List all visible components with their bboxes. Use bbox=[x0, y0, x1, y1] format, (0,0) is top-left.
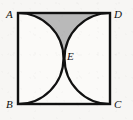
vertex-label-e: E bbox=[67, 51, 74, 62]
geometry-figure: A D B C E bbox=[0, 0, 133, 120]
vertex-label-d: D bbox=[114, 9, 122, 20]
vertex-label-a: A bbox=[6, 9, 13, 20]
vertex-label-b: B bbox=[6, 99, 13, 110]
vertex-label-c: C bbox=[114, 99, 121, 110]
